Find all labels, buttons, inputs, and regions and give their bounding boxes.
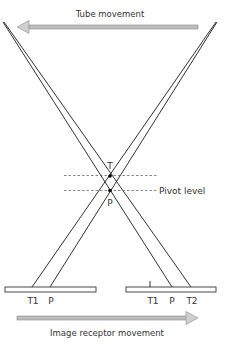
image-receptor-movement-label: Image receptor movement — [50, 328, 165, 338]
left-image-receptor — [5, 287, 96, 292]
point-p-label: P — [107, 198, 113, 208]
right-receptor-label-t2: T2 — [185, 296, 197, 306]
tube-movement-label: Tube movement — [75, 9, 145, 19]
tomography-diagram: Tube movement Pivot level T P T1 P T1 P … — [0, 0, 226, 344]
left-receptor-label-t1: T1 — [26, 296, 38, 306]
left-receptor-label-p: P — [48, 296, 54, 306]
right-receptor-label-p: P — [169, 296, 175, 306]
right-receptor-label-t1: T1 — [146, 296, 158, 306]
pivot-level-label: Pivot level — [159, 186, 205, 196]
point-p-marker — [108, 189, 112, 193]
point-t-marker — [108, 174, 112, 178]
tube-movement-arrow — [17, 21, 198, 34]
beam-left-to-right — [3, 22, 191, 287]
right-image-receptor — [126, 287, 216, 292]
point-t-label: T — [106, 161, 113, 171]
image-receptor-movement-arrow — [17, 312, 198, 325]
beam-right-to-left — [32, 22, 217, 287]
